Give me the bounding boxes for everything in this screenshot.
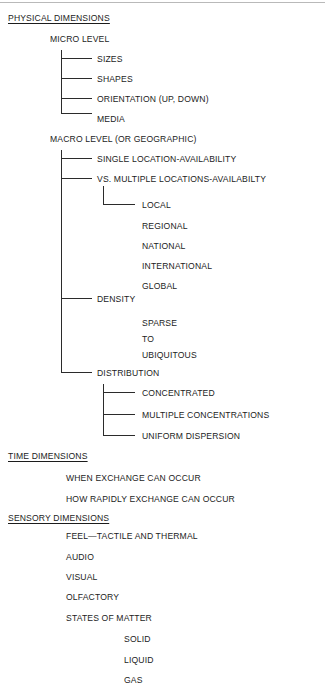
section-header-sensory-dimensions: SENSORY DIMENSIONS — [8, 513, 109, 523]
node-when-exchange: WHEN EXCHANGE CAN OCCUR — [66, 473, 201, 483]
node-to: TO — [142, 334, 154, 344]
node-international: INTERNATIONAL — [142, 261, 212, 271]
section-header-time-dimensions: TIME DIMENSIONS — [8, 451, 88, 461]
connector-branch-shapes — [61, 78, 92, 79]
connector-branch-multiple-locations — [61, 178, 92, 179]
node-feel-tactile: FEEL—TACTILE AND THERMAL — [66, 531, 198, 541]
node-olfactory: OLFACTORY — [66, 592, 119, 602]
node-macro-level: MACRO LEVEL (OR GEOGRAPHIC) — [50, 134, 197, 144]
section-header-physical-dimensions: PHYSICAL DIMENSIONS — [8, 13, 110, 23]
node-states-of-matter: STATES OF MATTER — [66, 613, 152, 623]
connector-branch-uniform-dispersion — [103, 435, 135, 436]
node-density: DENSITY — [97, 294, 135, 304]
node-ubiquitous: UBIQUITOUS — [142, 350, 197, 360]
node-regional: REGIONAL — [142, 221, 188, 231]
connector-branch-orientation — [61, 98, 92, 99]
node-multiple-locations: VS. MULTIPLE LOCATIONS-AVAILABILTY — [97, 174, 266, 184]
node-local: LOCAL — [142, 200, 171, 210]
connector-branch-media — [61, 113, 92, 114]
connector-branch-density — [61, 298, 92, 299]
connector-branch-single-location — [61, 158, 92, 159]
node-orientation: ORIENTATION (UP, DOWN) — [97, 94, 209, 104]
node-shapes: SHAPES — [97, 74, 133, 84]
top-divider — [0, 2, 325, 3]
node-visual: VISUAL — [66, 572, 97, 582]
node-global: GLOBAL — [142, 281, 177, 291]
node-multiple-concentrations: MULTIPLE CONCENTRATIONS — [142, 410, 269, 420]
node-audio: AUDIO — [66, 552, 94, 562]
node-how-rapidly: HOW RAPIDLY EXCHANGE CAN OCCUR — [66, 494, 235, 504]
connector-branch-distribution — [61, 372, 92, 373]
connector-branch-concentrated — [103, 392, 135, 393]
node-solid: SOLID — [124, 634, 151, 644]
node-media: MEDIA — [97, 114, 125, 124]
connector-branch-sizes — [61, 58, 92, 59]
connector-trunk-local — [103, 186, 104, 205]
node-gas: GAS — [124, 675, 143, 685]
hierarchy-diagram: PHYSICAL DIMENSIONS MICRO LEVEL SIZES SH… — [0, 0, 325, 689]
node-sparse: SPARSE — [142, 318, 177, 328]
connector-branch-local — [103, 204, 135, 205]
node-concentrated: CONCENTRATED — [142, 388, 215, 398]
node-single-location: SINGLE LOCATION-AVAILABILITY — [97, 154, 236, 164]
node-distribution: DISTRIBUTION — [97, 368, 159, 378]
node-micro-level: MICRO LEVEL — [50, 34, 109, 44]
node-national: NATIONAL — [142, 241, 186, 251]
node-sizes: SIZES — [97, 54, 123, 64]
connector-trunk-macro-level — [61, 150, 62, 373]
connector-branch-multiple-concentrations — [103, 414, 135, 415]
connector-trunk-micro-level — [61, 50, 62, 114]
node-liquid: LIQUID — [124, 655, 154, 665]
node-uniform-dispersion: UNIFORM DISPERSION — [142, 431, 240, 441]
